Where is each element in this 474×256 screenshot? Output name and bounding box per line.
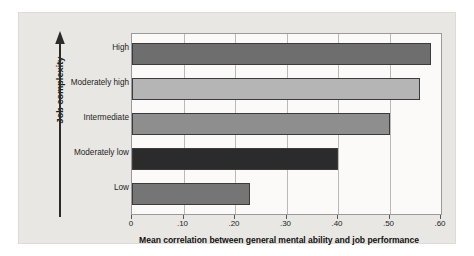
chart-figure: Job complexity High Moderately high Inte… <box>0 0 474 256</box>
y-label-intermediate: Intermediate <box>65 113 129 123</box>
x-label-010: .10 <box>166 219 200 228</box>
x-label-0: 0 <box>114 219 148 228</box>
y-label-moderately-low: Moderately low <box>65 148 129 158</box>
y-label-high: High <box>65 43 129 53</box>
bar-intermediate <box>132 113 390 135</box>
y-axis-labels: High Moderately high Intermediate Modera… <box>65 37 129 213</box>
bar-moderately-low <box>132 148 338 170</box>
x-label-030: .30 <box>269 219 303 228</box>
x-label-040: .40 <box>320 219 354 228</box>
x-axis-labels: 0 .10 .20 .30 .40 .50 .60 <box>131 219 442 233</box>
y-label-low: Low <box>65 183 129 193</box>
bar-moderately-high <box>132 78 420 100</box>
bar-high <box>132 43 431 65</box>
x-axis-title: Mean correlation between general mental … <box>79 235 474 245</box>
x-label-050: .50 <box>372 219 406 228</box>
y-label-moderately-high: Moderately high <box>65 78 129 88</box>
bar-low <box>132 183 250 205</box>
x-label-060: .60 <box>423 219 457 228</box>
chart-panel: Job complexity High Moderately high Inte… <box>18 12 456 244</box>
x-label-020: .20 <box>217 219 251 228</box>
plot-area <box>131 33 442 215</box>
